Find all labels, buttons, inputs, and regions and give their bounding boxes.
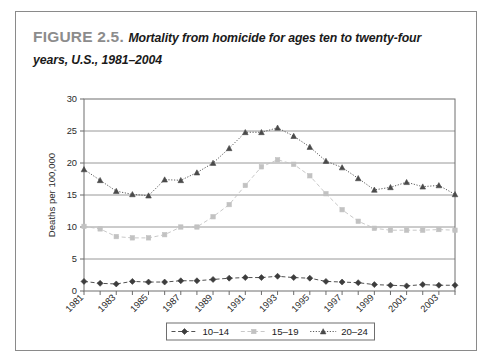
data-point [452, 192, 458, 197]
legend-label: 15–19 [272, 326, 299, 337]
data-point [81, 278, 87, 284]
x-tick-1987: 1987 [160, 292, 182, 314]
data-point [195, 225, 199, 229]
homicide-mortality-line-chart: 051015202530 198119831985198719891991199… [43, 85, 463, 345]
x-axis-tick-labels: 1981198319851987198919911993199519971999… [64, 292, 441, 314]
chart-plot-area: 051015202530 198119831985198719891991199… [43, 85, 463, 345]
data-point [340, 208, 344, 212]
data-point [130, 236, 134, 240]
data-point [194, 278, 200, 284]
data-point [371, 282, 377, 288]
y-tick-5: 5 [72, 254, 77, 264]
data-point [323, 278, 329, 284]
y-tick-20: 20 [67, 158, 77, 168]
y-tick-15: 15 [67, 190, 77, 200]
figure-caption: FIGURE 2.5. Mortality from homicide for … [33, 26, 457, 70]
data-point [81, 167, 87, 172]
x-tick-1993: 1993 [257, 292, 279, 314]
data-point [356, 219, 360, 223]
data-point [275, 125, 281, 130]
data-point [291, 162, 295, 166]
data-point [242, 275, 248, 281]
data-point [194, 170, 200, 175]
data-point [339, 165, 345, 170]
data-point [436, 282, 442, 288]
y-tick-10: 10 [67, 222, 77, 232]
data-point [210, 276, 216, 282]
data-point [404, 179, 410, 184]
data-point [129, 278, 135, 284]
data-point [324, 192, 328, 196]
data-point [275, 273, 281, 279]
data-point [388, 185, 394, 190]
data-point [372, 226, 376, 230]
data-point [404, 228, 408, 232]
y-axis-title: Deaths per 100,000 [46, 153, 57, 237]
data-point [291, 275, 297, 281]
data-point [162, 232, 166, 236]
data-point [146, 193, 152, 198]
x-tick-1995: 1995 [290, 292, 312, 314]
x-tick-2001: 2001 [386, 292, 408, 314]
data-point [178, 278, 184, 284]
data-point [97, 280, 103, 286]
data-point [162, 279, 168, 285]
data-point [388, 228, 392, 232]
data-point [275, 158, 279, 162]
x-tick-1997: 1997 [322, 292, 344, 314]
data-point [437, 227, 441, 231]
data-point [243, 183, 247, 187]
figure-number-label: FIGURE 2.5. [33, 28, 124, 45]
data-point [420, 282, 426, 288]
data-point [211, 215, 215, 219]
data-point [259, 129, 265, 134]
y-tick-25: 25 [67, 126, 77, 136]
data-point [114, 234, 118, 238]
series-15-19 [82, 158, 457, 240]
data-point [258, 275, 264, 281]
data-point [259, 165, 263, 169]
data-point [146, 236, 150, 240]
y-tick-30: 30 [67, 94, 77, 104]
data-point [355, 176, 361, 181]
chart-legend: 10–1415–1920–24 [167, 323, 375, 340]
data-point [82, 224, 86, 228]
x-tick-1991: 1991 [225, 292, 247, 314]
x-tick-1983: 1983 [96, 292, 118, 314]
data-point [226, 275, 232, 281]
series-10-14 [81, 273, 458, 289]
figure-frame: FIGURE 2.5. Mortality from homicide for … [15, 11, 477, 351]
series-20-24 [81, 125, 458, 198]
data-point [404, 283, 410, 289]
legend-label: 20–24 [341, 326, 368, 337]
data-series-group [81, 125, 458, 289]
data-point [291, 133, 297, 138]
y-axis-tick-labels: 051015202530 [67, 94, 77, 296]
x-tick-1999: 1999 [354, 292, 376, 314]
data-point [421, 228, 425, 232]
x-tick-1985: 1985 [128, 292, 150, 314]
data-point [179, 225, 183, 229]
data-point [98, 227, 102, 231]
data-point [113, 281, 119, 287]
data-point [307, 144, 313, 149]
legend-label: 10–14 [203, 326, 230, 337]
data-point [146, 279, 152, 285]
data-point [307, 275, 313, 281]
x-tick-1981: 1981 [64, 292, 86, 314]
data-point [355, 280, 361, 286]
data-point [227, 202, 231, 206]
data-point [178, 177, 184, 182]
data-point [453, 228, 457, 232]
data-point [97, 177, 103, 182]
data-point [452, 282, 458, 288]
data-point [339, 279, 345, 285]
data-point [387, 282, 393, 288]
x-tick-2003: 2003 [419, 292, 441, 314]
data-point [113, 188, 119, 193]
data-point [308, 174, 312, 178]
x-tick-1989: 1989 [193, 292, 215, 314]
